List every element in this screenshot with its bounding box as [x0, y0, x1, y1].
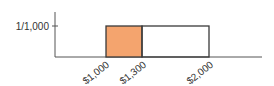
- shaded-region: [106, 26, 142, 57]
- uniform-density-chart: 1/1,000 $1,000 $1,300 $2,000: [0, 0, 274, 86]
- unshaded-region: [142, 26, 209, 57]
- x-tick-label-1000: $1,000: [80, 59, 111, 86]
- y-tick-label: 1/1,000: [16, 21, 50, 32]
- x-tick-label-1300: $1,300: [117, 59, 148, 86]
- x-tick-label-2000: $2,000: [184, 59, 215, 86]
